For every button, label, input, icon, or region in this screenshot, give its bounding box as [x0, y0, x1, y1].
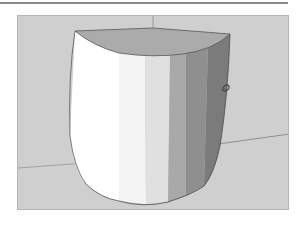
- model-viewport[interactable]: [17, 15, 289, 210]
- top-divider: [0, 2, 288, 4]
- solid-body[interactable]: [70, 31, 230, 205]
- scene-canvas[interactable]: [18, 16, 289, 210]
